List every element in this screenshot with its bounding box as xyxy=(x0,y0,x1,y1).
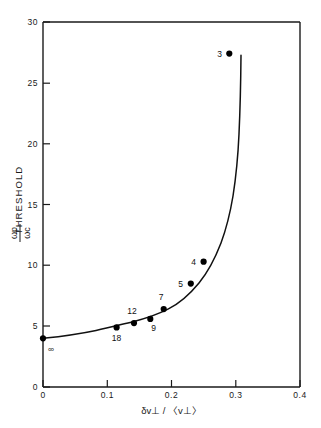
data-curve xyxy=(43,55,241,338)
ratio-denominator: ωc xyxy=(22,227,32,239)
data-point xyxy=(188,281,194,287)
data-point xyxy=(40,335,46,341)
data-point xyxy=(114,324,120,330)
x-tick-label: 0 xyxy=(40,390,45,400)
data-point-label: 18 xyxy=(112,333,122,343)
x-axis-title: δv⊥ / 〈v⊥〉 xyxy=(141,405,202,416)
x-tick-label: 0.3 xyxy=(229,390,242,400)
x-axis-tick-labels: 0 0.1 0.2 0.3 0.4 xyxy=(40,390,306,400)
x-tick-label: 0.1 xyxy=(101,390,114,400)
data-point-label: 4 xyxy=(191,257,196,267)
y-axis-title-text: THRESHOLD xyxy=(13,166,24,235)
data-points xyxy=(40,51,233,342)
data-point-label: 9 xyxy=(151,323,156,333)
y-axis-tick-labels: 30 25 20 15 10 5 0 xyxy=(28,17,38,392)
data-point-labels: ∞ 18 12 9 7 5 4 3 xyxy=(48,49,222,355)
data-point-label: ∞ xyxy=(48,344,54,354)
data-point xyxy=(131,320,137,326)
y-tick-label: 0 xyxy=(33,382,38,392)
y-tick-label: 30 xyxy=(28,17,38,27)
y-tick-label: 5 xyxy=(33,321,38,331)
ratio-numerator: ωp xyxy=(9,227,19,239)
plot-frame xyxy=(43,22,300,387)
data-point-label: 7 xyxy=(159,292,164,302)
x-tick-label: 0.2 xyxy=(165,390,178,400)
y-axis-title: THRESHOLD xyxy=(13,166,24,235)
x-tick-label: 0.4 xyxy=(293,390,306,400)
y-axis-ticks xyxy=(43,22,50,387)
data-point xyxy=(201,259,207,265)
data-point-label: 3 xyxy=(217,49,222,59)
chart-svg: 30 25 20 15 10 5 0 0 0.1 0.2 0.3 0.4 xyxy=(0,0,321,428)
y-tick-label: 15 xyxy=(28,200,38,210)
data-point-label: 5 xyxy=(178,279,183,289)
x-axis-ticks xyxy=(43,380,300,387)
data-point-label: 12 xyxy=(127,306,137,316)
y-tick-label: 10 xyxy=(28,260,38,270)
figure-panel: 30 25 20 15 10 5 0 0 0.1 0.2 0.3 0.4 xyxy=(0,0,321,428)
x-axis-title-text: δv⊥ / 〈v⊥〉 xyxy=(141,405,202,416)
data-point xyxy=(147,316,153,322)
y-tick-label: 20 xyxy=(28,139,38,149)
data-point xyxy=(226,51,232,57)
data-point xyxy=(161,306,167,312)
y-tick-label: 25 xyxy=(28,78,38,88)
